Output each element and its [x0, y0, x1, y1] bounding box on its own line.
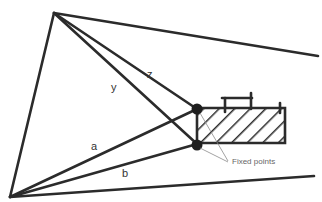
hatched-object	[197, 108, 285, 144]
label-fixed-points: Fixed points	[232, 157, 275, 166]
label-y: y	[111, 81, 117, 93]
label-z: z	[147, 68, 153, 80]
perspective-diagram: z y a b Fixed points	[0, 0, 322, 202]
left-boundary-line	[10, 13, 54, 197]
label-b: b	[122, 167, 128, 179]
label-a: a	[91, 140, 98, 152]
leader-line-lower	[200, 148, 228, 162]
lower-boundary-line	[10, 176, 314, 197]
fixed-point-upper	[192, 104, 203, 115]
line-z	[54, 13, 197, 109]
